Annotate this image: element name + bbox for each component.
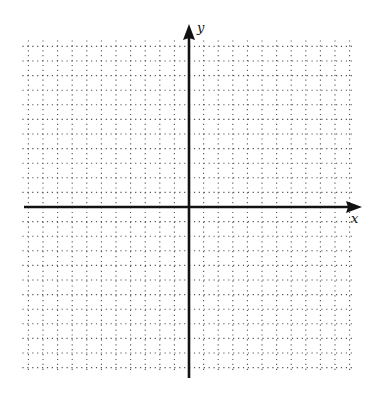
x-axis — [24, 201, 362, 213]
y-axis — [183, 24, 195, 378]
y-axis-label: y — [197, 20, 204, 35]
y-axis-arrow-icon — [183, 24, 195, 40]
x-axis-label: x — [351, 211, 358, 226]
coordinate-plane — [0, 0, 384, 401]
